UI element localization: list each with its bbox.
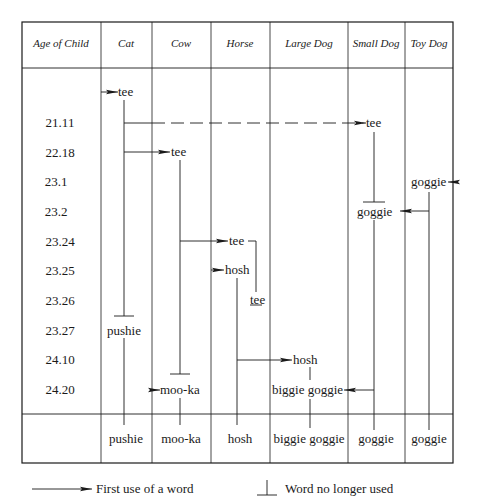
legend: First use of a word Word no longer used bbox=[32, 480, 394, 496]
toy-dog-word-goggie: goggie bbox=[411, 174, 447, 189]
legend-arrow-label: First use of a word bbox=[96, 481, 194, 496]
cat-word-pushie: pushie bbox=[107, 323, 141, 338]
final-word-small-dog: goggie bbox=[358, 431, 394, 446]
large-dog-word-hosh: hosh bbox=[293, 352, 318, 367]
cell-words: tee pushie tee moo-ka tee hosh tee hosh … bbox=[107, 84, 447, 397]
cat-word-tee: tee bbox=[118, 84, 133, 99]
header-cat: Cat bbox=[118, 37, 135, 49]
age-label: 23.25 bbox=[45, 263, 74, 278]
cow-word-tee: tee bbox=[171, 144, 186, 159]
header-cow: Cow bbox=[171, 37, 192, 49]
age-label: 23.24 bbox=[45, 234, 75, 249]
legend-stop-icon bbox=[257, 480, 277, 495]
cow-word-moo-ka: moo-ka bbox=[160, 382, 200, 397]
header-small-dog: Small Dog bbox=[353, 37, 400, 49]
final-word-toy-dog: goggie bbox=[411, 431, 447, 446]
age-label: 23.27 bbox=[45, 323, 75, 338]
final-word-horse: hosh bbox=[228, 431, 253, 446]
header-large-dog: Large Dog bbox=[284, 37, 333, 49]
small-dog-word-goggie: goggie bbox=[357, 204, 393, 219]
age-label: 23.26 bbox=[45, 293, 75, 308]
age-label: 22.18 bbox=[45, 145, 74, 160]
age-label: 21.11 bbox=[46, 115, 75, 130]
age-label: 24.20 bbox=[45, 382, 74, 397]
column-headers: Age of Child Cat Cow Horse Large Dog Sma… bbox=[32, 37, 448, 49]
word-development-diagram: Age of Child Cat Cow Horse Large Dog Sma… bbox=[0, 0, 477, 502]
final-word-cat: pushie bbox=[109, 431, 143, 446]
legend-stop-label: Word no longer used bbox=[285, 481, 394, 496]
header-horse: Horse bbox=[226, 37, 254, 49]
header-age-of-child: Age of Child bbox=[32, 37, 89, 49]
age-label: 24.10 bbox=[45, 352, 74, 367]
horse-word-tee: tee bbox=[229, 233, 244, 248]
horse-word-tee-end: tee bbox=[250, 292, 265, 307]
large-dog-word-biggie-goggie: biggie goggie bbox=[272, 382, 343, 397]
horse-word-hosh: hosh bbox=[225, 262, 250, 277]
final-words-row: pushie moo-ka hosh biggie goggie goggie … bbox=[109, 431, 447, 446]
age-column: 21.11 22.18 23.1 23.2 23.24 23.25 23.26 … bbox=[45, 115, 76, 397]
final-word-large-dog: biggie goggie bbox=[273, 431, 344, 446]
final-word-cow: moo-ka bbox=[161, 431, 201, 446]
age-label: 23.1 bbox=[45, 174, 68, 189]
header-toy-dog: Toy Dog bbox=[410, 37, 448, 49]
age-label: 23.2 bbox=[45, 204, 68, 219]
connector-lines bbox=[101, 92, 457, 430]
small-dog-word-tee: tee bbox=[366, 115, 381, 130]
